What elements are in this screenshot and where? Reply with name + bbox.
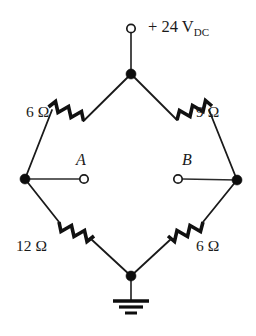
node-dot-left (20, 174, 30, 184)
resistor-bottom-left-label: 12 Ω (16, 238, 47, 254)
source-branch (127, 24, 135, 74)
wire-r1-to-left-node (25, 110, 52, 179)
wire-r4-to-bottom-node (131, 239, 171, 276)
source-voltage-value: + 24 V (148, 17, 194, 36)
terminal-a-icon[interactable] (80, 175, 88, 183)
resistor-bottom-right-label: 6 Ω (196, 238, 219, 254)
resistor-bottom-left-branch (25, 179, 131, 276)
source-voltage-subscript: DC (194, 26, 210, 38)
wire-right-node-to-r4 (203, 180, 237, 222)
node-dot-bottom (126, 271, 136, 281)
resistor-top-left-label: 6 Ω (26, 104, 49, 120)
resistor-bottom-right-branch (131, 180, 237, 276)
wire-top-to-r1 (84, 74, 132, 121)
resistor-top-right-label: 9 Ω (196, 104, 219, 120)
circuit-canvas (0, 0, 256, 336)
wire-top-to-r2 (131, 74, 177, 120)
node-dot-right (232, 175, 242, 185)
node-dot-top (126, 69, 136, 79)
source-terminal-icon[interactable] (127, 24, 135, 32)
terminal-b-icon[interactable] (174, 175, 182, 183)
circuit-diagram: + 24 VDC 6 Ω 9 Ω 12 Ω 6 Ω A B (0, 0, 256, 336)
earth-ground-icon (113, 276, 149, 313)
wire-left-node-to-r3 (25, 179, 59, 222)
terminal-b-label: B (182, 152, 192, 168)
source-voltage-label: + 24 VDC (148, 19, 209, 38)
terminal-b-branch (174, 175, 237, 183)
terminal-a-branch (25, 175, 88, 183)
wire-r2-to-right-node (209, 110, 237, 180)
resistor-top-left-zigzag (49, 102, 84, 122)
terminal-b-lead-wire (183, 179, 238, 180)
wire-r3-to-bottom-node (91, 239, 131, 276)
resistor-bottom-left-zigzag (59, 222, 94, 242)
terminal-a-label: A (76, 152, 86, 168)
